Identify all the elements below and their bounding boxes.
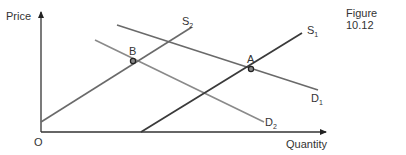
supply-curve-s2 bbox=[41, 27, 192, 122]
supply-curve-s1 bbox=[141, 33, 302, 132]
point-a-label: A bbox=[247, 53, 255, 65]
y-axis-label: Price bbox=[6, 10, 31, 22]
point-b-label: B bbox=[129, 45, 136, 57]
curve-label-s2: S2 bbox=[182, 15, 193, 29]
curve-label-d2: D2 bbox=[265, 116, 277, 130]
origin-label: O bbox=[34, 136, 43, 148]
demand-curve-d2 bbox=[95, 40, 264, 122]
figure-title: Figure 10.12 bbox=[346, 7, 406, 31]
equilibrium-point-a bbox=[248, 66, 253, 71]
curve-label-d1: D1 bbox=[311, 92, 323, 106]
demand-curve-d1 bbox=[117, 25, 318, 90]
equilibrium-point-b bbox=[130, 58, 135, 63]
x-axis-label: Quantity bbox=[286, 138, 327, 150]
curve-label-s1: S1 bbox=[307, 24, 318, 38]
